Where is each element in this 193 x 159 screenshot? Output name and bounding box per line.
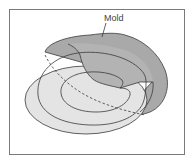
mold-cutaway-diagram: Mold: [0, 0, 193, 159]
mold-label: Mold: [104, 13, 124, 23]
